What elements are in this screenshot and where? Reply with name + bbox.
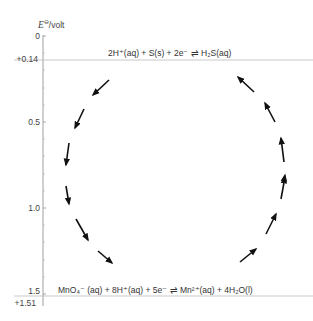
tick-label-1-5: 1.5	[16, 286, 40, 296]
top-half-equation: 2H⁺(aq) + S(s) + 2e⁻ ⇌ H₂S(aq)	[108, 48, 231, 58]
left-arrows-downward	[66, 80, 112, 263]
tick-label-0-5: 0.5	[16, 117, 40, 127]
tick-label-0: 0	[22, 31, 40, 41]
axis-unit: /volt	[49, 20, 65, 30]
right-arrows-upward	[238, 77, 285, 262]
bottom-half-equation: MnO₄⁻ (aq) + 8H⁺(aq) + 5e⁻ ⇌ Mn²⁺(aq) + …	[58, 285, 253, 295]
tick-label-1-0: 1.0	[16, 203, 40, 213]
axis-title: E⊖/volt	[38, 18, 64, 30]
potential-axis	[43, 35, 46, 306]
tick-label-top-potential: +0.14	[2, 54, 38, 64]
tick-label-bottom-potential: +1.51	[2, 298, 36, 308]
redox-cycle-diagram: E⊖/volt 0 +0.14 0.5 1.0 1.5 +1.51 2H⁺(aq…	[0, 0, 313, 321]
